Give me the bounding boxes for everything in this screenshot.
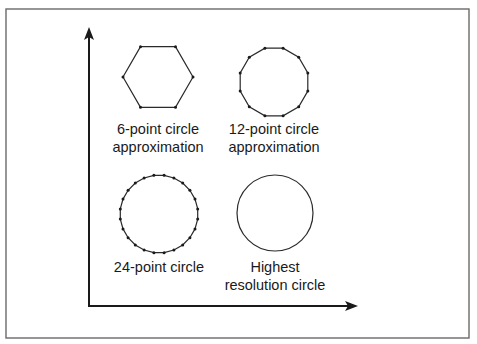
circle-outline <box>237 175 313 251</box>
vertex-point <box>127 189 130 192</box>
vertex-point <box>122 198 125 201</box>
vertex-point <box>122 227 125 230</box>
circle-label-line: Highest <box>250 259 299 275</box>
circle-approximation-diagram: 6-point circleapproximation 12-point cir… <box>0 0 477 344</box>
vertex-point <box>196 218 199 221</box>
vertex-point <box>248 105 251 108</box>
vertex-point <box>139 45 142 48</box>
vertex-point <box>119 218 122 221</box>
vertex-point <box>239 71 242 74</box>
vertex-point <box>163 174 166 177</box>
vertex-point <box>139 106 142 109</box>
highest-resolution-circle: Highestresolution circle <box>225 175 326 293</box>
vertex-point <box>306 90 309 93</box>
vertex-point <box>181 182 184 185</box>
vertex-point <box>174 106 177 109</box>
vertex-point <box>248 56 251 59</box>
vertex-point <box>172 177 175 180</box>
vertex-point <box>143 177 146 180</box>
vertex-point <box>181 243 184 246</box>
twenty-four-point-circle: 24-point circle <box>114 174 204 275</box>
six-point-circle-approximation: 6-point circleapproximation <box>112 45 203 155</box>
vertex-point <box>188 189 191 192</box>
vertex-point <box>143 249 146 252</box>
vertex-point <box>194 227 197 230</box>
vertex-point <box>152 174 155 177</box>
icositetragon-outline <box>120 175 197 252</box>
vertex-point <box>306 71 309 74</box>
vertex-point <box>119 207 122 210</box>
hexagon-outline <box>123 47 193 108</box>
vertex-point <box>196 207 199 210</box>
icositetragon-label-line: 24-point circle <box>114 259 204 275</box>
vertex-point <box>297 56 300 59</box>
vertex-point <box>188 236 191 239</box>
vertex-point <box>174 45 177 48</box>
vertex-point <box>194 198 197 201</box>
vertex-point <box>163 251 166 254</box>
vertex-point <box>122 76 125 79</box>
vertex-point <box>134 182 137 185</box>
vertex-point <box>239 90 242 93</box>
hexagon-label-line: approximation <box>112 139 203 155</box>
dodecagon-label-line: 12-point circle <box>229 121 319 137</box>
twelve-point-circle-approximation: 12-point circleapproximation <box>228 47 319 155</box>
vertex-point <box>134 243 137 246</box>
vertex-point <box>172 249 175 252</box>
hexagon-label-line: 6-point circle <box>117 121 199 137</box>
vertex-point <box>127 236 130 239</box>
vertex-point <box>192 76 195 79</box>
circle-label-line: resolution circle <box>225 277 326 293</box>
vertex-point <box>282 114 285 117</box>
vertex-point <box>282 47 285 50</box>
vertex-point <box>263 114 266 117</box>
vertex-point <box>297 105 300 108</box>
dodecagon-label-line: approximation <box>228 139 319 155</box>
vertex-point <box>263 47 266 50</box>
vertex-point <box>152 251 155 254</box>
